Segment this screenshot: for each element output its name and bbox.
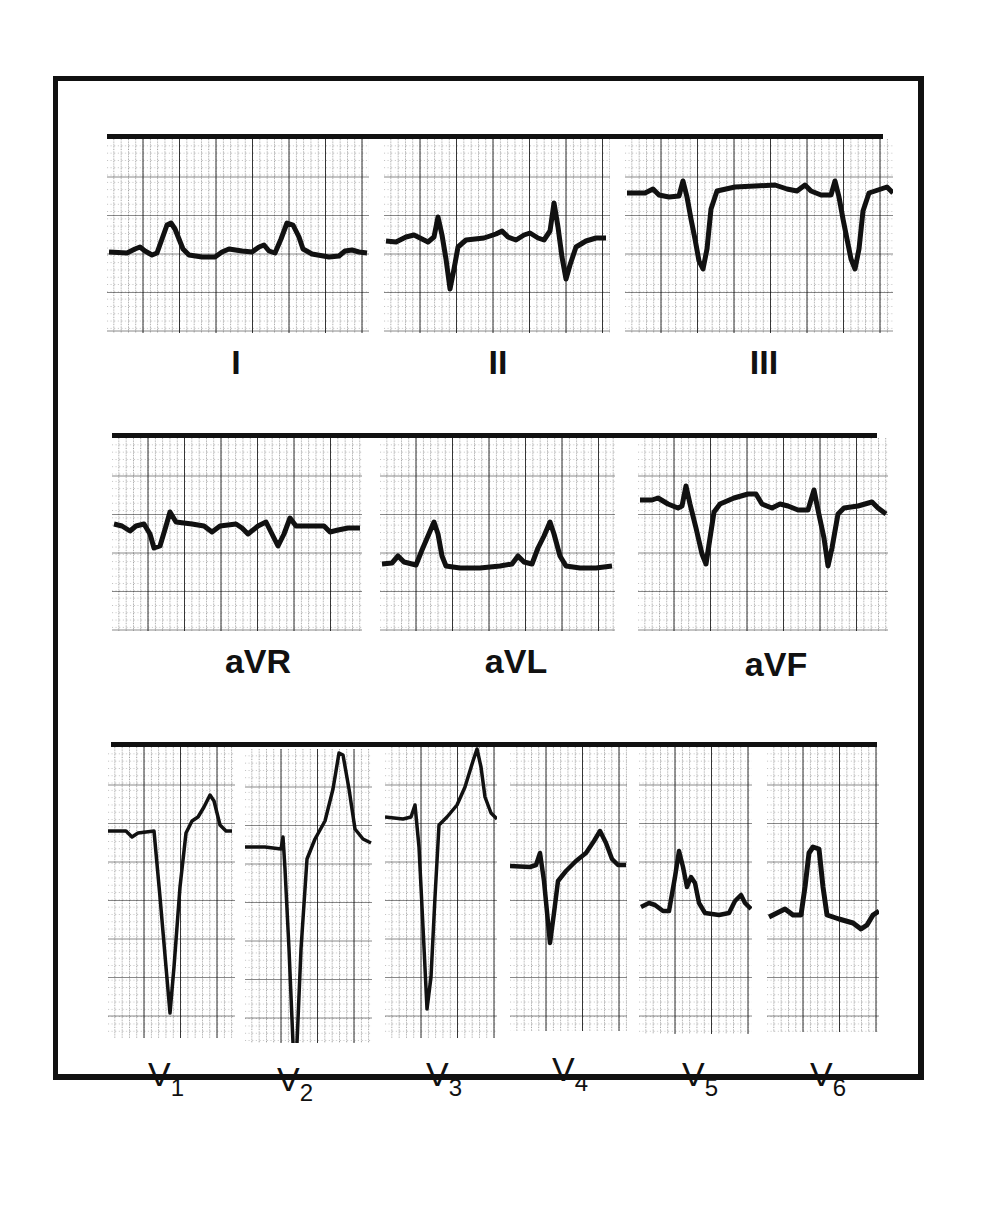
lead-label-v4-sub: 4 (575, 1069, 588, 1096)
lead-label-v1-main: V (148, 1055, 171, 1093)
lead-label-v6-sub: 6 (833, 1074, 846, 1101)
lead-label-v6: V6 (798, 1055, 858, 1094)
lead-label-v1-sub: 1 (171, 1074, 184, 1101)
ecg-trace-lead-v4 (510, 747, 627, 1031)
ecg-trace-lead-avr (112, 438, 362, 631)
ecg-panel-lead-avl (380, 438, 615, 631)
lead-label-v2-main: V (277, 1060, 300, 1098)
ecg-panel-lead-i (107, 139, 369, 333)
ecg-panel-lead-v4 (510, 747, 627, 1031)
lead-label-v4-main: V (552, 1050, 575, 1088)
ecg-trace-lead-v2 (245, 749, 372, 1043)
ecg-trace-lead-v3 (385, 747, 497, 1038)
lead-label-v2: V2 (265, 1060, 325, 1099)
lead-label-v5-main: V (682, 1055, 705, 1093)
ecg-trace-lead-ii (384, 139, 610, 333)
lead-label-avr: aVR (218, 642, 298, 681)
ecg-panel-lead-v1 (108, 747, 235, 1038)
ecg-panel-lead-avf (638, 438, 888, 631)
lead-label-avl: aVL (476, 642, 556, 681)
lead-label-ii: II (478, 343, 518, 382)
ecg-panel-lead-ii (384, 139, 610, 333)
ecg-panel-lead-avr (112, 438, 362, 631)
ecg-trace-lead-iii (625, 139, 893, 333)
ecg-trace-lead-i (107, 139, 369, 333)
ecg-trace-lead-v1 (108, 747, 235, 1038)
lead-label-i: I (216, 343, 256, 382)
lead-label-avf: aVF (736, 645, 816, 684)
lead-label-v1: V1 (136, 1055, 196, 1094)
ecg-trace-lead-avl (380, 438, 615, 631)
lead-label-v3: V3 (414, 1055, 474, 1094)
lead-label-iii: III (744, 343, 784, 382)
lead-label-v2-sub: 2 (300, 1079, 313, 1106)
ecg-trace-lead-v5 (639, 747, 752, 1034)
ecg-panel-lead-v3 (385, 747, 497, 1038)
lead-label-v6-main: V (810, 1055, 833, 1093)
lead-label-v3-sub: 3 (449, 1074, 462, 1101)
ecg-panel-lead-v5 (639, 747, 752, 1034)
lead-label-v3-main: V (426, 1055, 449, 1093)
lead-label-v5-sub: 5 (705, 1074, 718, 1101)
ecg-panel-lead-v2 (245, 749, 372, 1043)
ecg-panel-lead-v6 (767, 747, 879, 1032)
lead-label-v4: V4 (540, 1050, 600, 1089)
ecg-panel-lead-iii (625, 139, 893, 333)
ecg-trace-lead-v6 (767, 747, 879, 1032)
lead-label-v5: V5 (670, 1055, 730, 1094)
ecg-trace-lead-avf (638, 438, 888, 631)
